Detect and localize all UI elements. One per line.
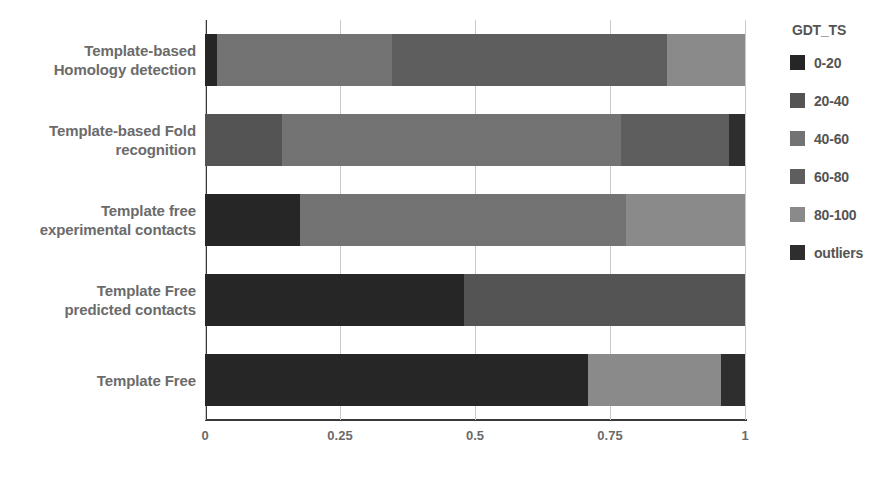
legend-item-60-80[interactable]: 60-80 — [790, 164, 890, 189]
legend: GDT_TS 0-2020-4040-6060-8080-100outliers — [790, 22, 890, 278]
y-axis-label-line: experimental contacts — [16, 220, 196, 239]
bar-row — [205, 354, 745, 406]
bar-segment-80-100 — [667, 34, 745, 86]
bar-segment-outliers — [721, 354, 745, 406]
legend-item-80-100[interactable]: 80-100 — [790, 202, 890, 227]
bar-segment-20-40 — [205, 114, 282, 166]
legend-swatch-icon — [790, 55, 805, 70]
x-axis-tick-label-1: 0.25 — [327, 428, 352, 443]
gridline-x-4 — [745, 20, 746, 420]
bar-segment-40-60 — [282, 114, 621, 166]
y-axis-label-line: Homology detection — [16, 60, 196, 79]
bar-segment-0-20 — [205, 194, 300, 246]
stacked-bar-chart: Template-basedHomology detectionTemplate… — [0, 0, 890, 478]
x-axis-tick-label-0: 0 — [201, 428, 208, 443]
bar-segment-0-20 — [205, 34, 217, 86]
legend-item-0-20[interactable]: 0-20 — [790, 50, 890, 75]
legend-label: 40-60 — [814, 131, 849, 147]
legend-swatch-icon — [790, 93, 805, 108]
legend-item-outliers[interactable]: outliers — [790, 240, 890, 265]
y-axis-label-4: Template Free — [16, 371, 196, 390]
legend-swatch-icon — [790, 245, 805, 260]
y-axis-tick-labels: Template-basedHomology detectionTemplate… — [8, 20, 196, 420]
legend-items: 0-2020-4040-6060-8080-100outliers — [790, 50, 890, 265]
x-axis-tick-label-3: 0.75 — [597, 428, 622, 443]
legend-item-40-60[interactable]: 40-60 — [790, 126, 890, 151]
bar-segment-0-20 — [205, 274, 464, 326]
bar-segment-80-100 — [626, 194, 745, 246]
bar-segment-20-40 — [464, 274, 745, 326]
bar-segment-outliers — [729, 114, 745, 166]
bar-row — [205, 34, 745, 86]
legend-swatch-icon — [790, 131, 805, 146]
legend-swatch-icon — [790, 207, 805, 222]
bar-segment-40-60 — [300, 194, 627, 246]
y-axis-label-1: Template-based Foldrecognition — [16, 121, 196, 159]
y-axis-label-line: predicted contacts — [16, 300, 196, 319]
legend-title: GDT_TS — [792, 22, 890, 38]
bar-row — [205, 114, 745, 166]
y-axis-label-line: Template Free — [16, 371, 196, 390]
y-axis-label-2: Template freeexperimental contacts — [16, 201, 196, 239]
legend-label: outliers — [814, 245, 863, 261]
y-axis-label-line: Template-based Fold — [16, 121, 196, 140]
bar-segment-80-100 — [588, 354, 720, 406]
bar-segment-60-80 — [621, 114, 729, 166]
y-axis-label-line: Template Free — [16, 281, 196, 300]
y-axis-label-0: Template-basedHomology detection — [16, 41, 196, 79]
legend-label: 20-40 — [814, 93, 849, 109]
bar-segment-60-80 — [392, 34, 667, 86]
legend-label: 0-20 — [814, 55, 841, 71]
plot-area — [205, 20, 745, 420]
x-axis-tick-label-4: 1 — [741, 428, 748, 443]
legend-swatch-icon — [790, 169, 805, 184]
y-axis-label-line: Template free — [16, 201, 196, 220]
bar-row — [205, 274, 745, 326]
bar-row — [205, 194, 745, 246]
bar-segment-40-60 — [217, 34, 392, 86]
legend-label: 80-100 — [814, 207, 856, 223]
legend-label: 60-80 — [814, 169, 849, 185]
bar-segment-0-20 — [205, 354, 588, 406]
y-axis-label-line: recognition — [16, 140, 196, 159]
x-axis-tick-label-2: 0.5 — [466, 428, 484, 443]
y-axis-label-line: Template-based — [16, 41, 196, 60]
legend-item-20-40[interactable]: 20-40 — [790, 88, 890, 113]
y-axis-label-3: Template Freepredicted contacts — [16, 281, 196, 319]
